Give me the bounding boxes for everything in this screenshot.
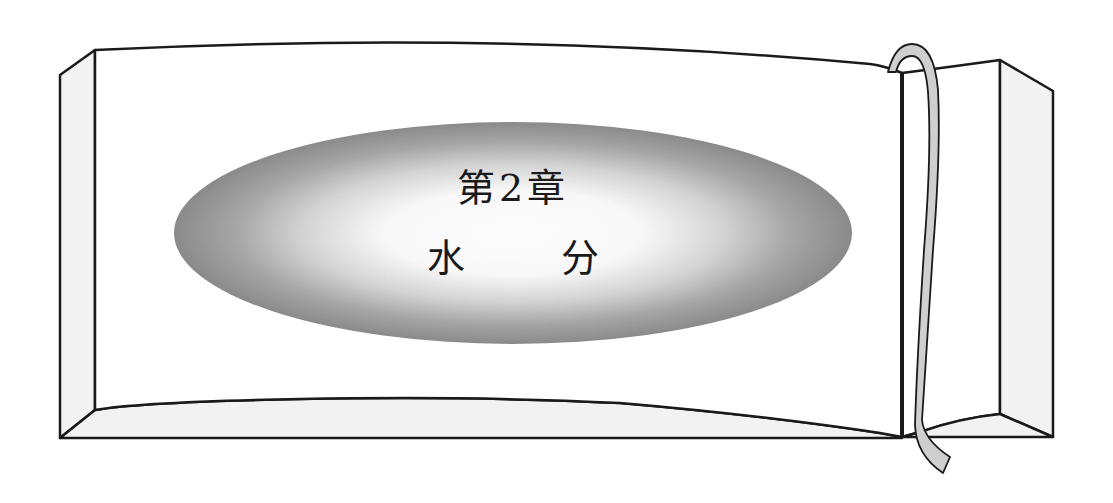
chapter-title: 水 分 bbox=[343, 236, 683, 280]
right-page-edge bbox=[1000, 60, 1053, 437]
chapter-title-char-2: 分 bbox=[561, 236, 599, 280]
left-page-edge bbox=[60, 50, 95, 438]
chapter-title-block: 第2章 水 分 bbox=[343, 148, 683, 308]
chapter-title-char-1: 水 bbox=[427, 236, 465, 280]
chapter-heading: 第2章 bbox=[343, 166, 683, 210]
